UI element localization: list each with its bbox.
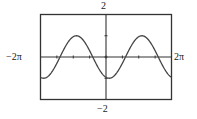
x-max-label: 2π: [174, 52, 184, 62]
plot-window: [0, 0, 197, 119]
y-max-label: 2: [101, 1, 106, 11]
x-min-label: −2π: [6, 52, 22, 62]
y-min-label: −2: [97, 104, 108, 114]
